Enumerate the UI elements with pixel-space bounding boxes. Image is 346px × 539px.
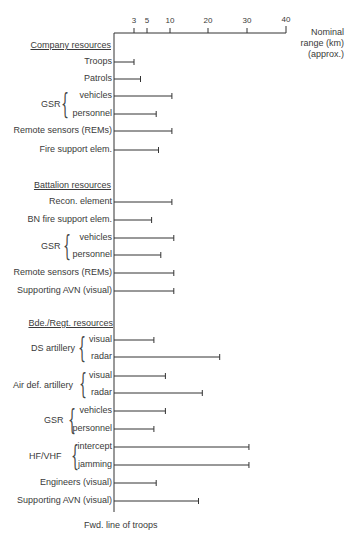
header-battalion-resources: Battalion resources [34,180,111,191]
range-bar [114,390,202,396]
x-axis-title: Nominal range (km) (approx.) [300,27,344,60]
row-label: Remote sensors (REMs) [13,125,112,136]
range-bar [114,217,152,223]
tick-label-5: 5 [145,16,149,25]
row-label: personnel [72,423,112,434]
tick-label-3: 3 [132,16,136,25]
brace-label-gsr-battalion: GSR [41,241,61,252]
row-label: Fire support elem. [39,144,112,155]
row-label: intercept [77,441,112,452]
brace-label-gsr-company: GSR [41,99,61,110]
range-bar [114,337,154,343]
range-bar [114,270,174,276]
range-chart: 3 5 10 20 30 40 Nominal range (km) (appr… [0,0,346,539]
row-label: radar [91,387,112,398]
brace-label-air-def-artillery: Air def. artillery [13,380,73,391]
range-bar [114,462,249,468]
tick-label-10: 10 [166,16,175,25]
row-label: visual [89,334,112,345]
brace-icon: { [63,232,71,260]
row-label: radar [91,351,112,362]
row-label: Troops [84,56,112,67]
header-brigade-resources: Bde./Regt. resources [28,318,113,329]
row-label: vehicles [79,232,112,243]
range-bar [114,128,172,134]
row-label: Recon. element [49,196,112,207]
range-bar [114,354,220,360]
brace-label-hf-vhf: HF/VHF [29,451,62,462]
range-bar [114,498,199,504]
footer-label: Fwd. line of troops [84,520,158,530]
brace-label-gsr-brigade: GSR [44,415,64,426]
x-axis-title-line2: range (km) [300,38,344,49]
brace-icon: { [79,370,87,398]
x-axis-ticks [134,26,286,33]
range-bar [114,111,156,117]
range-bar [114,76,141,82]
x-axis-title-line1: Nominal [300,27,344,38]
range-bar [114,408,165,414]
row-label: personnel [72,249,112,260]
brace-icon: { [78,334,86,362]
range-bar [114,59,134,65]
brace-icon: { [71,442,79,470]
row-label: Supporting AVN (visual) [17,495,112,506]
tick-label-40: 40 [282,15,291,24]
range-bar [114,426,154,432]
range-bar [114,480,156,486]
range-bar [114,199,172,205]
range-bar [114,288,174,294]
brace-label-ds-artillery: DS artillery [31,343,75,354]
header-company-resources: Company resources [30,40,111,51]
row-label: Supporting AVN (visual) [17,285,112,296]
range-bar [114,373,165,379]
row-label: Engineers (visual) [40,477,112,488]
row-label: vehicles [79,405,112,416]
brace-icon: { [68,406,76,434]
row-label: Remote sensors (REMs) [13,267,112,278]
range-bar [114,235,174,241]
row-label: vehicles [79,90,112,101]
bars [114,59,249,504]
row-label: visual [89,370,112,381]
tick-label-20: 20 [204,16,213,25]
row-label: jamming [78,459,112,470]
x-axis-title-line3: (approx.) [300,49,344,60]
brace-icon: { [61,90,69,118]
range-bar [114,93,172,99]
row-label: BN fire support elem. [27,214,112,225]
range-bar [114,444,249,450]
range-bar [114,147,159,153]
row-label: Patrols [84,73,112,84]
tick-label-30: 30 [243,16,252,25]
range-bar [114,252,161,258]
row-label: personnel [72,108,112,119]
